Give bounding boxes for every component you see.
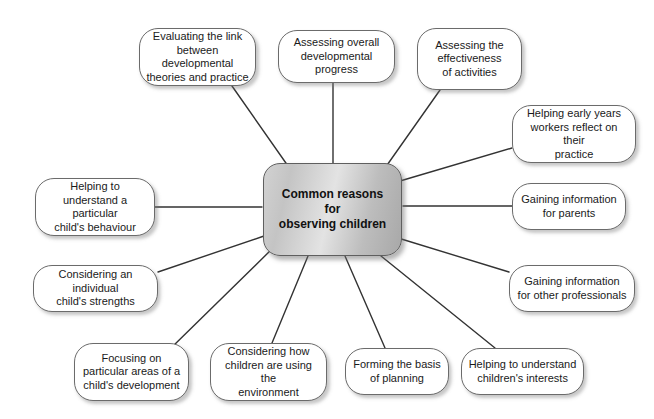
connector-helping-understand-interests — [381, 256, 495, 348]
connector-focusing-on-particular-areas — [170, 249, 272, 349]
node-gaining-information-professionals[interactable]: Gaining informationfor other professiona… — [509, 265, 635, 312]
node-helping-understand-interests[interactable]: Helping to understandchildren's interest… — [461, 348, 584, 395]
node-label: Focusing onparticular areas of achild's … — [81, 352, 182, 393]
connector-helping-early-years-workers — [400, 148, 512, 181]
connector-considering-how-children-use-environment — [272, 256, 308, 343]
node-forming-basis-of-planning[interactable]: Forming the basisof planning — [345, 348, 449, 395]
node-assessing-overall-progress[interactable]: Assessing overalldevelopmental progress — [278, 30, 395, 83]
node-label: Gaining informationfor parents — [519, 193, 619, 220]
node-label: Helping early yearsworkers reflect on th… — [519, 107, 629, 161]
node-label: Helping to understandchildren's interest… — [468, 358, 577, 385]
node-evaluating-the-link[interactable]: Evaluating the linkbetween developmental… — [139, 28, 256, 86]
node-label: Considering an individualchild's strengt… — [40, 268, 151, 309]
connector-gaining-information-professionals — [398, 238, 509, 272]
connector-evaluating-the-link — [232, 86, 288, 166]
node-gaining-information-parents[interactable]: Gaining informationfor parents — [512, 183, 626, 230]
center-node[interactable]: Common reasonsforobserving children — [263, 163, 402, 256]
node-focusing-on-particular-areas[interactable]: Focusing onparticular areas of achild's … — [74, 343, 189, 401]
node-label: Forming the basisof planning — [352, 358, 442, 385]
node-helping-understand-behaviour[interactable]: Helping tounderstand a particularchild's… — [35, 178, 155, 236]
node-label: Helping tounderstand a particularchild's… — [42, 180, 148, 234]
node-label: Gaining informationfor other professiona… — [516, 275, 628, 302]
node-label: Considering howchildren are using theenv… — [217, 345, 320, 399]
connector-assessing-effectiveness — [385, 90, 440, 168]
node-label: Assessing theeffectivenessof activities — [424, 39, 515, 80]
node-label: Assessing overalldevelopmental progress — [285, 36, 388, 77]
node-label: Evaluating the linkbetween developmental… — [146, 30, 249, 84]
center-node-label: Common reasonsforobserving children — [264, 187, 401, 232]
node-considering-how-children-use-environment[interactable]: Considering howchildren are using theenv… — [210, 343, 327, 401]
node-considering-individual-strengths[interactable]: Considering an individualchild's strengt… — [33, 265, 158, 312]
connector-forming-basis-of-planning — [345, 256, 385, 348]
node-helping-early-years-workers[interactable]: Helping early yearsworkers reflect on th… — [512, 105, 636, 163]
connector-considering-individual-strengths — [158, 236, 264, 272]
diagram-canvas: Evaluating the linkbetween developmental… — [0, 0, 654, 419]
node-assessing-effectiveness[interactable]: Assessing theeffectivenessof activities — [417, 28, 522, 90]
